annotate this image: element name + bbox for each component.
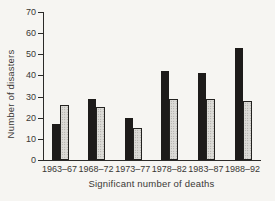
y-tick [38,75,43,76]
y-tick [38,118,43,119]
solid-black-bar-1988–92 [235,48,243,160]
y-tick [38,33,43,34]
solid-black-bar-1968–72 [88,99,96,160]
y-tick-label: 40 [12,71,36,80]
y-tick-label: 20 [12,114,36,123]
y-tick-label: 30 [12,93,36,102]
solid-black-bar-1983–87 [198,73,206,160]
y-tick-label: 60 [12,29,36,38]
y-tick [38,54,43,55]
solid-black-bar-1963–67 [52,124,60,160]
x-axis-label: Significant number of deaths [43,178,260,189]
y-tick-label: 10 [12,135,36,144]
solid-black-bar-1973–77 [125,118,133,160]
y-tick-label: 70 [12,8,36,17]
stippled-grey-bar-1973–77 [133,128,142,160]
y-tick-label: 0 [12,156,36,165]
plot-area: 0102030405060701963–671968–721973–771978… [43,12,261,161]
y-tick-label: 50 [12,50,36,59]
stippled-grey-bar-1983–87 [206,99,215,160]
y-tick [38,160,43,161]
x-category-label: 1988–92 [221,164,265,174]
bar-chart-figure: Number of disasters 0102030405060701963–… [0,0,275,201]
stippled-grey-bar-1963–67 [60,105,69,160]
stippled-grey-bar-1988–92 [243,101,252,160]
y-tick [38,97,43,98]
solid-black-bar-1978–82 [161,71,169,160]
y-tick [38,139,43,140]
stippled-grey-bar-1978–82 [169,99,178,160]
y-tick [38,12,43,13]
stippled-grey-bar-1968–72 [96,107,105,160]
